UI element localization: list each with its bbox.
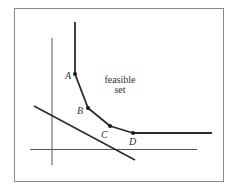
region-label-set: set [114, 84, 125, 95]
objective-line [34, 106, 135, 160]
feasible-set-diagram: A B C D feasible set [0, 0, 236, 193]
label-a: A [64, 70, 72, 81]
label-c: C [101, 129, 108, 140]
diagram-frame [15, 9, 224, 182]
vertex-b [86, 106, 90, 110]
vertex-d [131, 131, 135, 135]
feasible-set-boundary [75, 22, 212, 133]
label-b: B [77, 105, 83, 116]
label-d: D [128, 136, 137, 147]
vertex-a [73, 72, 77, 76]
vertex-c [108, 124, 112, 128]
